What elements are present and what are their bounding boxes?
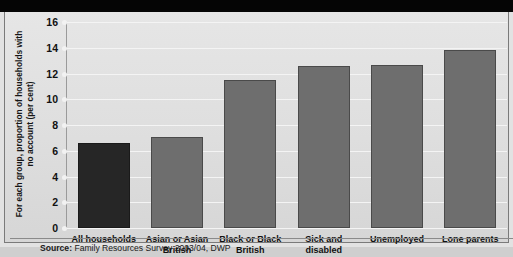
bar xyxy=(224,80,276,228)
gridline xyxy=(67,228,507,229)
x-tick-label: Unemployed xyxy=(360,234,433,245)
y-tick-label: 2 xyxy=(52,196,58,208)
bar xyxy=(151,137,203,228)
y-tick-label: 16 xyxy=(46,16,58,28)
y-tick-label: 14 xyxy=(46,42,58,54)
source-note: Source: Family Resources Survey 2003/04,… xyxy=(40,243,231,253)
bar-series xyxy=(67,22,507,228)
top-black-band xyxy=(0,0,513,12)
y-axis-title: For each group, proportion of households… xyxy=(15,24,35,224)
y-tick-label: 4 xyxy=(52,171,58,183)
chart-frame: For each group, proportion of households… xyxy=(4,12,509,243)
bar xyxy=(78,143,130,228)
y-axis-title-text: For each group, proportion of households… xyxy=(14,26,37,222)
source-text: Family Resources Survey 2003/04, DWP xyxy=(72,243,231,253)
source-label: Source: xyxy=(40,243,72,253)
y-tick-label: 8 xyxy=(52,119,58,131)
x-tick-label: Lone parents xyxy=(434,234,507,245)
bar xyxy=(371,65,423,229)
y-tick-label: 0 xyxy=(52,222,58,234)
y-tick-label: 10 xyxy=(46,93,58,105)
y-tick-label: 12 xyxy=(46,68,58,80)
plot-area: 0246810121416 xyxy=(67,22,507,228)
bar xyxy=(298,66,350,228)
source-divider xyxy=(10,238,513,239)
y-tick-label: 6 xyxy=(52,145,58,157)
bar xyxy=(444,50,496,228)
